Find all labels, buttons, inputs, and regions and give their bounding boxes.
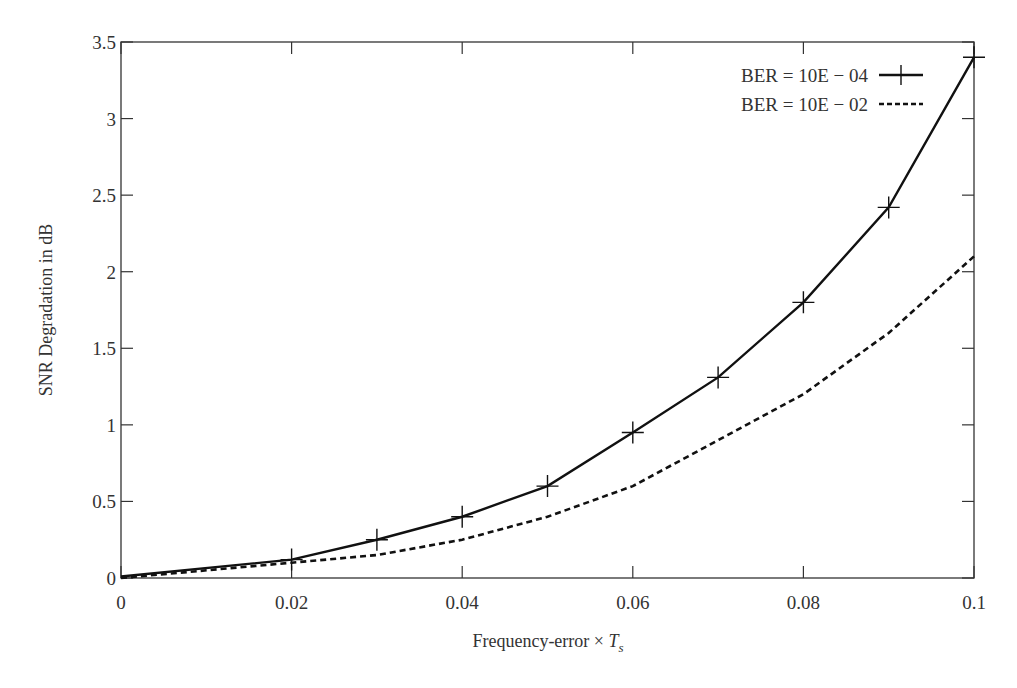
plus-marker (366, 529, 388, 551)
plot-frame (121, 42, 974, 578)
y-tick-label: 2.5 (92, 185, 116, 206)
y-tick-label: 0 (107, 568, 117, 589)
data-series (121, 46, 985, 578)
y-tick-label: 2 (107, 262, 117, 283)
plus-marker (537, 475, 559, 497)
legend-label: BER = 10E − 02 (741, 94, 868, 115)
x-tick-label: 0.02 (275, 592, 308, 613)
plus-marker (963, 46, 985, 68)
plus-marker (281, 549, 303, 571)
plus-marker (622, 422, 644, 444)
x-tick-label: 0.04 (446, 592, 480, 613)
x-tick-label: 0 (116, 592, 126, 613)
legend: BER = 10E − 04BER = 10E − 02 (741, 65, 923, 115)
y-tick-label: 1 (107, 415, 117, 436)
series-ber-1e-2-line (121, 256, 974, 578)
x-tick-label: 0.06 (616, 592, 649, 613)
y-tick-label: 1.5 (92, 338, 116, 359)
x-tick-label: 0.1 (962, 592, 986, 613)
y-axis-label: SNR Degradation in dB (36, 224, 56, 397)
y-tick-label: 3 (107, 109, 117, 130)
x-tick-label: 0.08 (787, 592, 820, 613)
y-tick-label: 0.5 (92, 491, 116, 512)
plot-area: 00.020.040.060.080.100.511.522.533.5 (92, 32, 986, 613)
series-ber-1e-4-line (121, 57, 974, 576)
x-axis-label: Frequency-error × Ts (472, 631, 623, 655)
line-chart: 00.020.040.060.080.100.511.522.533.5 BER… (0, 0, 1017, 688)
legend-label: BER = 10E − 04 (741, 65, 868, 86)
plus-marker (451, 506, 473, 528)
y-tick-label: 3.5 (92, 32, 116, 53)
